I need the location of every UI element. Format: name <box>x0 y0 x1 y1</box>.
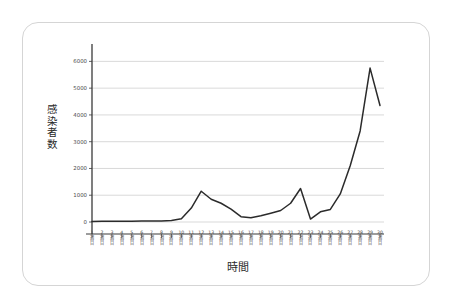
x-tick-ordinal-char: 目 <box>373 240 387 245</box>
y-tick-label: 1000 <box>61 192 87 198</box>
x-axis-title-text: 時間 <box>203 261 249 274</box>
y-tick-label: 0 <box>61 219 87 225</box>
gridlines-group <box>92 61 384 222</box>
screenshot-root: 0100020003000400050006000 1週目2週目3週目4週目5週… <box>0 0 452 308</box>
y-tick-label: 6000 <box>61 58 87 64</box>
x-tick-label: 30週目 <box>373 230 387 245</box>
x-axis-title: 時間 <box>0 258 452 274</box>
y-axis-title: 感 染 者 数 <box>44 104 60 150</box>
y-tick-label: 5000 <box>61 85 87 91</box>
y-tick-label: 2000 <box>61 165 87 171</box>
axes-group <box>86 44 384 234</box>
infection-count-line <box>92 68 380 221</box>
chart-figure: 0100020003000400050006000 1週目2週目3週目4週目5週… <box>0 0 452 308</box>
y-tick-label: 4000 <box>61 112 87 118</box>
y-tick-label: 3000 <box>61 139 87 145</box>
